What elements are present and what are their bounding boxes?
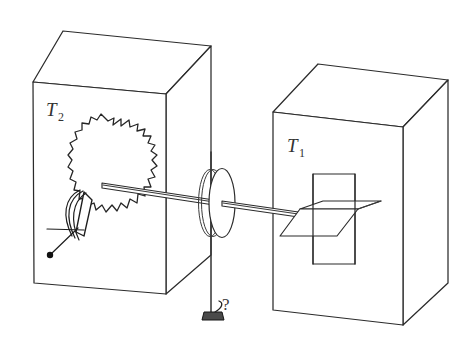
right-box-label-symbol: T <box>287 135 299 156</box>
pawl-pivot-dot <box>47 252 53 258</box>
left-box-label-subscript: 2 <box>58 110 64 124</box>
ratchet-pawl-diagram: T 2 T 1 ? <box>0 0 476 345</box>
unknown-weight-question-mark: ? <box>222 295 230 314</box>
right-heat-bath-box <box>273 64 448 325</box>
figure-root: T 2 T 1 ? <box>0 0 476 345</box>
weight-block <box>202 312 224 320</box>
right-box-label-subscript: 1 <box>299 146 305 160</box>
left-box-label-symbol: T <box>46 99 58 120</box>
